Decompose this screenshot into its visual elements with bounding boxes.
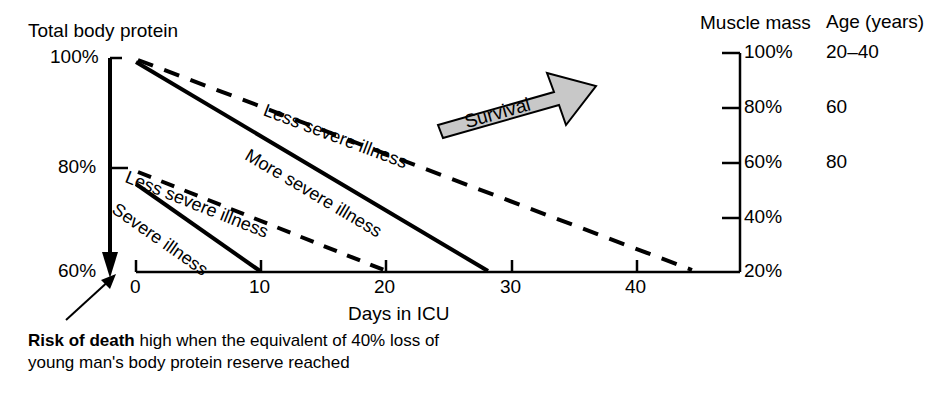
- age-value-80: 80: [826, 152, 847, 172]
- left-axis-tick-80: 80%: [58, 157, 96, 177]
- x-axis-title: Days in ICU: [348, 303, 449, 324]
- right-axis-tick-100: 100%: [744, 42, 793, 62]
- x-axis: [136, 260, 740, 272]
- risk-of-death-caption: Risk of death high when the equivalent o…: [28, 330, 448, 374]
- right-axis-tick-80: 80%: [744, 97, 782, 117]
- right-axis-tick-60: 60%: [744, 152, 782, 172]
- left-axis-tick-100: 100%: [50, 47, 99, 67]
- risk-of-death-caption-lead: Risk of death: [28, 331, 135, 350]
- age-value-60: 60: [826, 97, 847, 117]
- series-upper-dashed-less-severe: [138, 60, 692, 270]
- age-column-title: Age (years): [826, 12, 924, 32]
- x-axis-tick-10: 10: [249, 277, 270, 297]
- right-axis-title: Muscle mass: [700, 12, 811, 33]
- x-axis-tick-0: 0: [130, 277, 141, 297]
- age-value-20-40: 20–40: [826, 42, 879, 62]
- x-axis-tick-30: 30: [500, 277, 521, 297]
- right-axis-tick-40: 40%: [744, 207, 782, 227]
- right-axis-tick-20: 20%: [744, 261, 782, 281]
- x-axis-tick-20: 20: [374, 277, 395, 297]
- figure-root: Total body protein 100% 80% 60% 0 10 20 …: [0, 0, 948, 410]
- left-axis-title: Total body protein: [28, 20, 178, 41]
- x-axis-tick-40: 40: [625, 277, 646, 297]
- left-axis: [102, 58, 128, 278]
- left-axis-tick-60: 60%: [58, 261, 96, 281]
- right-axis: [722, 53, 740, 272]
